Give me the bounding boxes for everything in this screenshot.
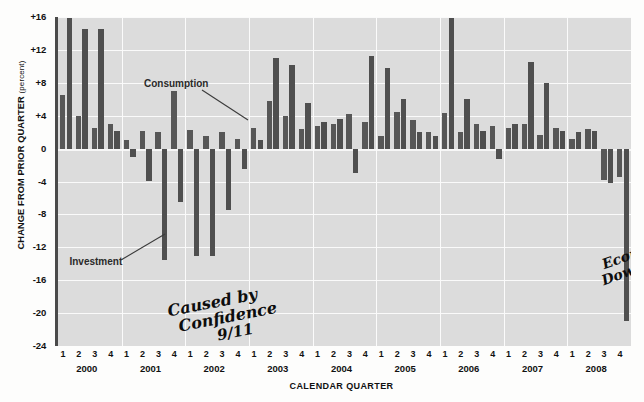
- bar-investment-2003-Q4: [305, 103, 310, 148]
- x-tick-quarter-2003-Q3: 3: [278, 349, 294, 359]
- chart-figure: CHANGE FROM PRIOR QUARTER (percent) +16+…: [0, 0, 644, 402]
- bar-consumption-2007-Q1: [506, 128, 511, 149]
- x-tick-quarter-2002-Q1: 1: [182, 349, 198, 359]
- x-tick-quarter-2008-Q3: 3: [596, 349, 612, 359]
- bar-investment-2003-Q1: [258, 140, 263, 148]
- x-tick-quarter-2007-Q2: 2: [517, 349, 533, 359]
- bar-consumption-2000-Q4: [108, 124, 113, 149]
- bar-investment-2000-Q2: [82, 29, 87, 148]
- x-tick-quarter-2004-Q1: 1: [310, 349, 326, 359]
- x-tick-quarter-2001-Q4: 4: [166, 349, 182, 359]
- bar-consumption-2003-Q3: [283, 116, 288, 149]
- y-tick-label-8: +8: [0, 77, 46, 88]
- handwritten-note-confidence: Caused by Confidence 9/11: [166, 283, 281, 346]
- bar-consumption-2005-Q2: [394, 112, 399, 149]
- bar-consumption-2004-Q3: [346, 114, 351, 149]
- x-tick-quarter-2000-Q2: 2: [71, 349, 87, 359]
- x-tick-quarter-2005-Q1: 1: [373, 349, 389, 359]
- x-tick-quarter-2004-Q4: 4: [357, 349, 373, 359]
- bar-consumption-2002-Q4: [235, 139, 240, 149]
- plot-inner: Consumption Investment Caused by Confide…: [58, 17, 631, 346]
- bar-investment-2008-Q4: [624, 149, 629, 322]
- bar-investment-2006-Q4: [496, 149, 501, 160]
- bar-consumption-2008-Q3: [601, 149, 606, 180]
- x-tick-quarter-2006-Q2: 2: [453, 349, 469, 359]
- x-tick-quarter-2007-Q4: 4: [548, 349, 564, 359]
- x-axis-year-2002: 2002: [184, 363, 244, 374]
- bar-consumption-2006-Q2: [458, 132, 463, 148]
- gridline--8: [58, 214, 631, 215]
- bar-consumption-2000-Q1: [60, 95, 65, 148]
- year-gridline-2006: [440, 17, 441, 346]
- bar-investment-2000-Q1: [67, 18, 72, 149]
- bar-consumption-2003-Q4: [299, 129, 304, 149]
- bar-consumption-2005-Q3: [410, 120, 415, 149]
- x-tick-quarter-2001-Q3: 3: [150, 349, 166, 359]
- x-tick-quarter-2004-Q2: 2: [326, 349, 342, 359]
- bar-consumption-2004-Q2: [331, 124, 336, 149]
- y-tick-label--20: -20: [0, 307, 46, 318]
- bar-consumption-2000-Q3: [92, 128, 97, 149]
- bar-consumption-2001-Q2: [140, 131, 145, 149]
- bar-investment-2007-Q3: [544, 83, 549, 149]
- x-axis-year-2005: 2005: [375, 363, 435, 374]
- x-axis-year-2000: 2000: [57, 363, 117, 374]
- bar-investment-2003-Q2: [273, 58, 278, 148]
- bar-consumption-2006-Q4: [490, 126, 495, 149]
- bar-investment-2005-Q2: [401, 99, 406, 148]
- bar-consumption-2007-Q3: [537, 135, 542, 148]
- bar-consumption-2006-Q3: [474, 124, 479, 149]
- bar-investment-2002-Q1: [194, 149, 199, 256]
- y-tick-label--16: -16: [0, 274, 46, 285]
- bar-investment-2004-Q4: [369, 56, 374, 149]
- x-tick-quarter-2008-Q1: 1: [564, 349, 580, 359]
- bar-consumption-2003-Q2: [267, 101, 272, 149]
- bar-consumption-2004-Q4: [362, 122, 367, 148]
- y-tick-label-16: +16: [0, 11, 46, 22]
- bar-investment-2005-Q1: [385, 68, 390, 149]
- x-tick-quarter-2003-Q1: 1: [246, 349, 262, 359]
- x-tick-quarter-2002-Q4: 4: [230, 349, 246, 359]
- investment-leader-line: [121, 234, 173, 262]
- x-tick-quarter-2000-Q1: 1: [55, 349, 71, 359]
- bar-consumption-2002-Q1: [187, 130, 192, 149]
- x-axis-year-2003: 2003: [248, 363, 308, 374]
- x-axis-year-2006: 2006: [439, 363, 499, 374]
- x-tick-quarter-2008-Q4: 4: [612, 349, 628, 359]
- gridline--16: [58, 280, 631, 281]
- bar-investment-2002-Q3: [226, 149, 231, 211]
- y-tick-label--8: -8: [0, 208, 46, 219]
- bar-investment-2001-Q4: [178, 149, 183, 202]
- bar-investment-2000-Q3: [98, 29, 103, 149]
- y-tick-label--24: -24: [0, 340, 46, 351]
- gridline-0: [58, 149, 631, 151]
- gridline-12: [58, 50, 631, 51]
- bar-investment-2004-Q3: [353, 149, 358, 174]
- x-tick-quarter-2005-Q3: 3: [405, 349, 421, 359]
- y-tick-label--4: -4: [0, 176, 46, 187]
- bar-consumption-2008-Q4: [617, 149, 622, 178]
- bar-consumption-2001-Q1: [124, 140, 129, 148]
- x-tick-quarter-2002-Q3: 3: [214, 349, 230, 359]
- bar-investment-2008-Q3: [608, 149, 613, 184]
- x-tick-quarter-2002-Q2: 2: [198, 349, 214, 359]
- bar-investment-2006-Q3: [480, 131, 485, 149]
- bar-consumption-2005-Q1: [378, 136, 383, 148]
- bar-investment-2008-Q1: [576, 132, 581, 148]
- bar-consumption-2007-Q2: [522, 124, 527, 149]
- x-tick-quarter-2000-Q4: 4: [103, 349, 119, 359]
- bar-consumption-2005-Q4: [426, 132, 431, 148]
- bar-investment-2007-Q4: [560, 131, 565, 149]
- bar-consumption-2008-Q2: [585, 129, 590, 149]
- x-axis-year-2007: 2007: [503, 363, 563, 374]
- x-tick-quarter-2006-Q1: 1: [437, 349, 453, 359]
- bar-investment-2002-Q4: [242, 149, 247, 170]
- bar-investment-2006-Q1: [449, 18, 454, 149]
- bar-investment-2005-Q3: [417, 132, 422, 148]
- year-gridline-2005: [376, 17, 377, 346]
- bar-consumption-2002-Q3: [219, 132, 224, 148]
- year-gridline-2007: [504, 17, 505, 346]
- consumption-series-label: Consumption: [144, 78, 208, 89]
- y-tick-label-4: +4: [0, 110, 46, 121]
- bar-investment-2006-Q2: [464, 99, 469, 148]
